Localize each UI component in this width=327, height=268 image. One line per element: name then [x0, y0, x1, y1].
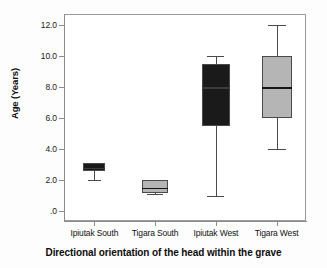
whisker-cap-lower: [268, 149, 286, 150]
y-axis-tick: [59, 56, 64, 57]
y-axis-tick: [59, 180, 64, 181]
boxplot-figure: 12.010.08.06.04.02.0.0 Age (Years) Direc…: [0, 0, 327, 268]
y-axis-tick: [59, 87, 64, 88]
x-axis-category-label: Ipiutak West: [193, 228, 238, 238]
y-axis-tick: [59, 118, 64, 119]
whisker-upper: [277, 25, 278, 56]
whisker-cap-upper: [268, 25, 286, 26]
y-axis-tick: [59, 211, 64, 212]
y-axis-tick: [59, 25, 64, 26]
x-axis-category-label: Ipiutak South: [71, 228, 119, 238]
x-axis-tick: [94, 221, 95, 226]
median-line: [262, 87, 292, 89]
x-axis-category-label: Tigara South: [132, 228, 179, 238]
x-axis-tick: [216, 221, 217, 226]
y-axis-tick: [59, 149, 64, 150]
x-axis-tick: [277, 221, 278, 226]
whisker-lower: [277, 118, 278, 149]
x-axis-tick: [155, 221, 156, 226]
x-axis-category-label: Tigara West: [255, 228, 299, 238]
